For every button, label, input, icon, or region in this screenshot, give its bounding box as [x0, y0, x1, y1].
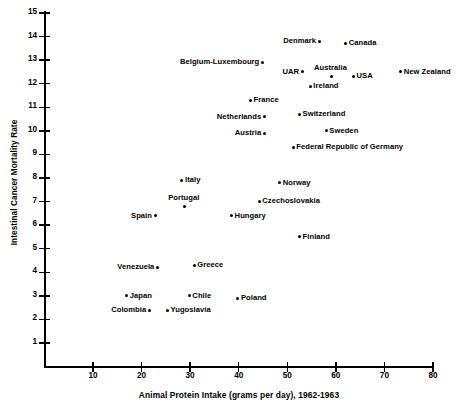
data-point-label-japan: Japan: [130, 292, 152, 300]
data-point-label-belgium-luxembourg: Belgium-Luxembourg: [180, 58, 259, 66]
data-point-spain: [154, 214, 157, 217]
data-point-label-finland: Finland: [303, 233, 330, 241]
data-point-label-new-zealand: New Zealand: [404, 68, 451, 76]
y-tick-7: [39, 201, 50, 203]
data-point-france: [249, 99, 252, 102]
data-point-yugoslavia: [166, 309, 169, 312]
data-point-portugal: [183, 205, 186, 208]
y-tick-label-11: 11: [3, 102, 37, 110]
data-point-poland: [236, 297, 239, 300]
data-point-label-france: France: [254, 96, 279, 104]
y-tick-label-7: 7: [3, 197, 37, 205]
scatter-chart: Intestinal Cancer Mortality Rate Animal …: [0, 0, 456, 411]
x-tick-label-70: 70: [369, 372, 399, 380]
x-tick-label-80: 80: [418, 372, 448, 380]
data-point-netherlands: [263, 115, 266, 118]
data-point-new-zealand: [399, 70, 402, 73]
data-point-label-switzerland: Switzerland: [303, 110, 346, 118]
y-tick-13: [39, 59, 50, 61]
data-point-colombia: [148, 309, 151, 312]
y-tick-8: [39, 177, 50, 179]
y-tick-6: [39, 224, 50, 226]
y-axis-line: [44, 11, 46, 368]
y-tick-label-6: 6: [3, 220, 37, 228]
data-point-label-usa: USA: [357, 72, 373, 80]
data-point-venezuela: [156, 266, 159, 269]
data-point-denmark: [318, 40, 321, 43]
x-axis-title: Animal Protein Intake (grams per day), 1…: [44, 390, 434, 400]
data-point-label-australia: Australia: [314, 64, 347, 72]
y-tick-14: [39, 36, 50, 38]
data-point-label-czechoslovakia: Czechoslovakia: [262, 197, 320, 205]
y-tick-label-9: 9: [3, 149, 37, 157]
x-tick-label-50: 50: [272, 372, 302, 380]
data-point-hungary: [230, 214, 233, 217]
y-tick-label-2: 2: [3, 314, 37, 322]
data-point-czechoslovakia: [258, 200, 261, 203]
data-point-label-poland: Poland: [241, 294, 267, 302]
y-tick-12: [39, 83, 50, 85]
y-tick-10: [39, 130, 50, 132]
data-point-australia: [330, 75, 333, 78]
data-point-label-italy: Italy: [185, 176, 200, 184]
data-point-italy: [180, 179, 183, 182]
data-point-austria: [263, 132, 266, 135]
data-point-switzerland: [298, 113, 301, 116]
y-tick-label-14: 14: [3, 32, 37, 40]
data-point-canada: [344, 42, 347, 45]
data-point-usa: [352, 75, 355, 78]
y-tick-1: [39, 342, 50, 344]
x-tick-label-60: 60: [321, 372, 351, 380]
data-point-ireland: [309, 85, 312, 88]
y-tick-label-3: 3: [3, 291, 37, 299]
x-tick-label-40: 40: [224, 372, 254, 380]
data-point-label-yugoslavia: Yugoslavia: [171, 306, 211, 314]
y-tick-label-4: 4: [3, 267, 37, 275]
y-tick-9: [39, 154, 50, 156]
data-point-finland: [298, 235, 301, 238]
data-point-label-chile: Chile: [192, 292, 211, 300]
data-point-label-greece: Greece: [197, 261, 223, 269]
data-point-label-norway: Norway: [283, 179, 311, 187]
data-point-chile: [188, 294, 191, 297]
data-point-sweden: [325, 129, 328, 132]
data-point-belgium-luxembourg: [261, 61, 264, 64]
y-tick-4: [39, 272, 50, 274]
data-point-label-colombia: Colombia: [111, 306, 146, 314]
data-point-label-austria: Austria: [235, 129, 262, 137]
y-tick-label-5: 5: [3, 244, 37, 252]
data-point-label-uar: UAR: [283, 68, 300, 76]
x-tick-label-20: 20: [127, 372, 157, 380]
x-tick-label-30: 30: [175, 372, 205, 380]
data-point-norway: [278, 181, 281, 184]
y-tick-label-15: 15: [3, 8, 37, 16]
y-tick-label-10: 10: [3, 126, 37, 134]
data-point-uar: [301, 70, 304, 73]
data-point-label-canada: Canada: [349, 39, 377, 47]
data-point-label-netherlands: Netherlands: [217, 113, 261, 121]
y-tick-5: [39, 248, 50, 250]
data-point-greece: [193, 264, 196, 267]
y-tick-11: [39, 107, 50, 109]
y-tick-label-8: 8: [3, 173, 37, 181]
y-tick-label-13: 13: [3, 55, 37, 63]
y-tick-15: [39, 12, 50, 14]
data-point-label-portugal: Portugal: [168, 194, 199, 202]
data-point-label-denmark: Denmark: [283, 37, 316, 45]
y-tick-label-12: 12: [3, 79, 37, 87]
data-point-label-venezuela: Venezuela: [117, 263, 154, 271]
y-tick-2: [39, 319, 50, 321]
data-point-label-hungary: Hungary: [235, 212, 266, 220]
data-point-label-federal-republic-of-germany: Federal Republic of Germany: [296, 143, 403, 151]
x-tick-label-10: 10: [78, 372, 108, 380]
y-tick-3: [39, 295, 50, 297]
data-point-label-sweden: Sweden: [329, 127, 358, 135]
y-tick-label-1: 1: [3, 338, 37, 346]
data-point-federal-republic-of-germany: [292, 146, 295, 149]
data-point-label-ireland: Ireland: [313, 82, 338, 90]
data-point-label-spain: Spain: [131, 212, 152, 220]
data-point-japan: [125, 294, 128, 297]
